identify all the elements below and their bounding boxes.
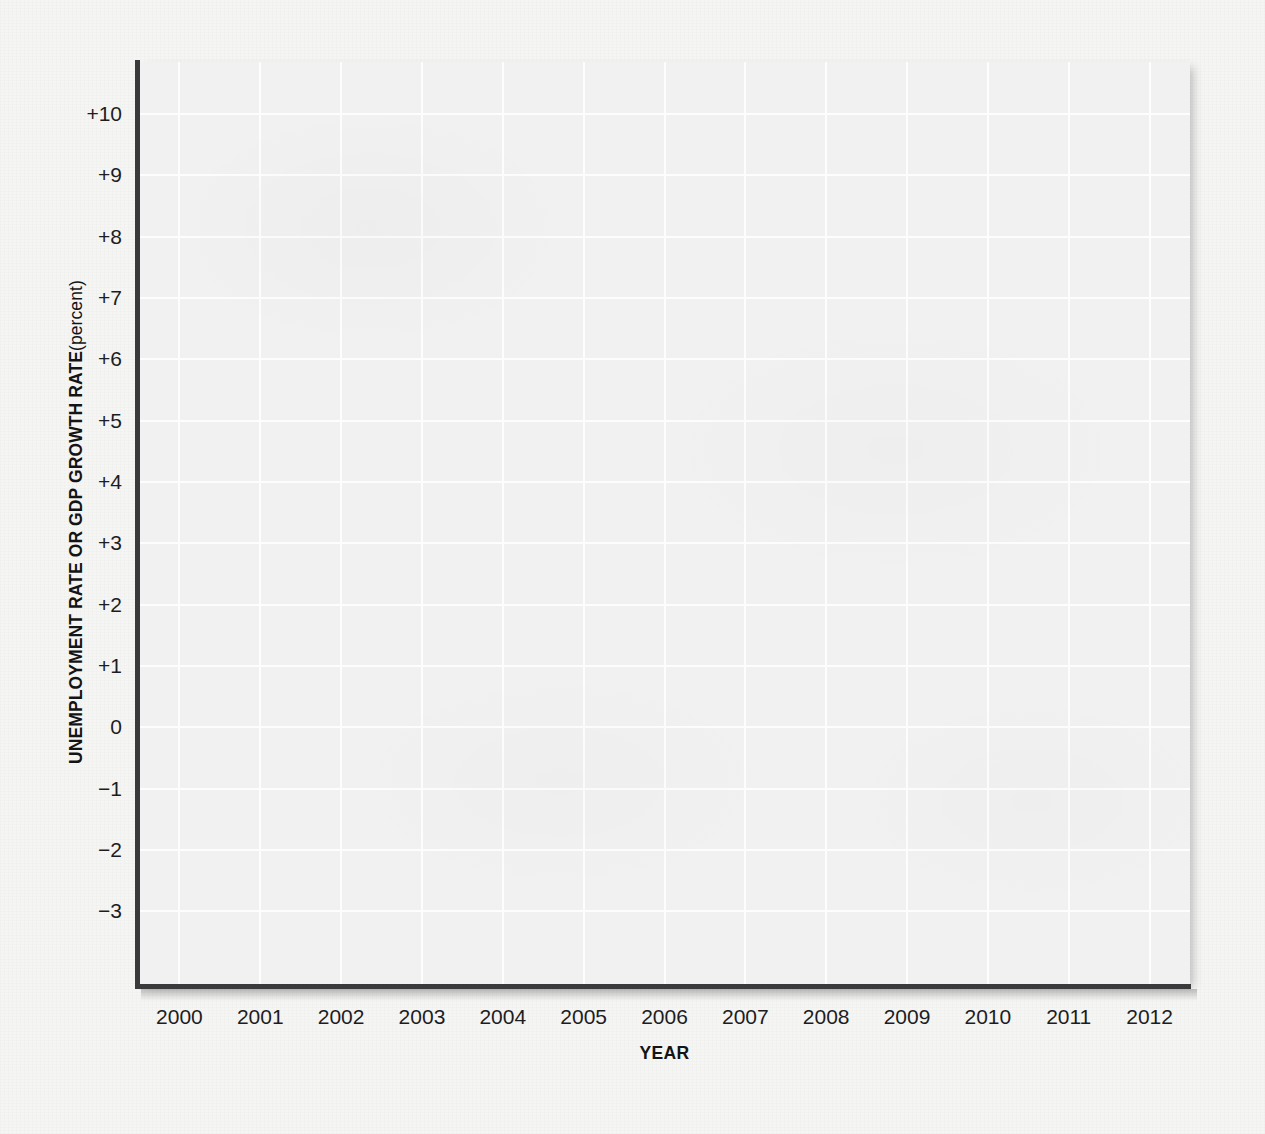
gridline-vertical	[340, 62, 342, 985]
gridline-vertical	[1068, 62, 1070, 985]
y-axis-title-unit: (percent)	[66, 280, 86, 351]
y-axis-title-text: UNEMPLOYMENT RATE OR GDP GROWTH RATE	[66, 351, 86, 764]
gridline-vertical	[1149, 62, 1151, 985]
gridline-vertical	[259, 62, 261, 985]
axis-drop-shadow	[141, 989, 1197, 1001]
gridline-vertical	[744, 62, 746, 985]
x-axis-title: YEAR	[139, 1043, 1190, 1064]
gridline-vertical	[583, 62, 585, 985]
gridline-vertical	[664, 62, 666, 985]
gridline-vertical	[987, 62, 989, 985]
y-axis-title: UNEMPLOYMENT RATE OR GDP GROWTH RATE(per…	[66, 57, 87, 987]
plot-area[interactable]	[139, 62, 1190, 985]
gridline-vertical	[906, 62, 908, 985]
gridline-vertical	[178, 62, 180, 985]
x-axis-tick-label: 2012	[1090, 1005, 1210, 1029]
gridline-vertical	[421, 62, 423, 985]
y-axis-line	[135, 60, 140, 989]
gridline-vertical	[825, 62, 827, 985]
gridline-vertical	[502, 62, 504, 985]
chart-figure: +10+9+8+7+6+5+4+3+2+10−1−2−3 20002001200…	[0, 0, 1265, 1134]
